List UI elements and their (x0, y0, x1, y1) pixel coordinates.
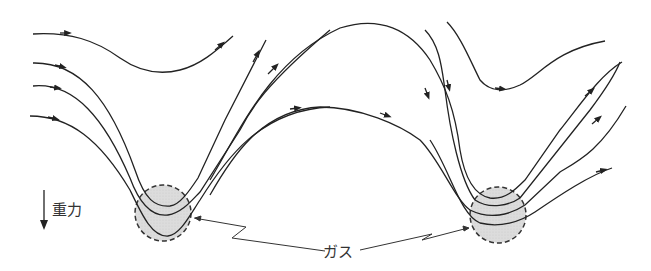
streamline (447, 22, 605, 90)
gravity-arrow-icon (40, 190, 48, 230)
streamline (210, 107, 612, 225)
streamline (33, 30, 330, 215)
streamlines (30, 22, 626, 236)
flow-diagram (0, 0, 651, 271)
gravity-label: 重力 (52, 198, 82, 219)
gas-label: ガス (323, 240, 353, 261)
gas-region-left (135, 185, 191, 241)
streamline (33, 40, 266, 206)
